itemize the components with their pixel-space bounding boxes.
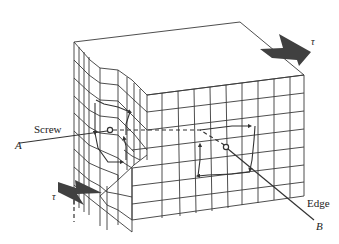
tau-label-bottom: τ (52, 192, 56, 202)
dislocation-line (20, 127, 314, 222)
right-face-grid (132, 75, 304, 232)
dashed-line (113, 130, 226, 146)
edge-label: Edge (307, 198, 330, 209)
dislocation-diagram (0, 0, 339, 244)
point-a-label: A (15, 140, 22, 151)
screw-label: Screw (34, 124, 62, 135)
screw-marker (107, 127, 112, 132)
edge-segment (228, 149, 314, 220)
edge-marker (223, 144, 228, 149)
point-b-label: B (316, 221, 323, 232)
tau-label-top: τ (311, 37, 315, 47)
